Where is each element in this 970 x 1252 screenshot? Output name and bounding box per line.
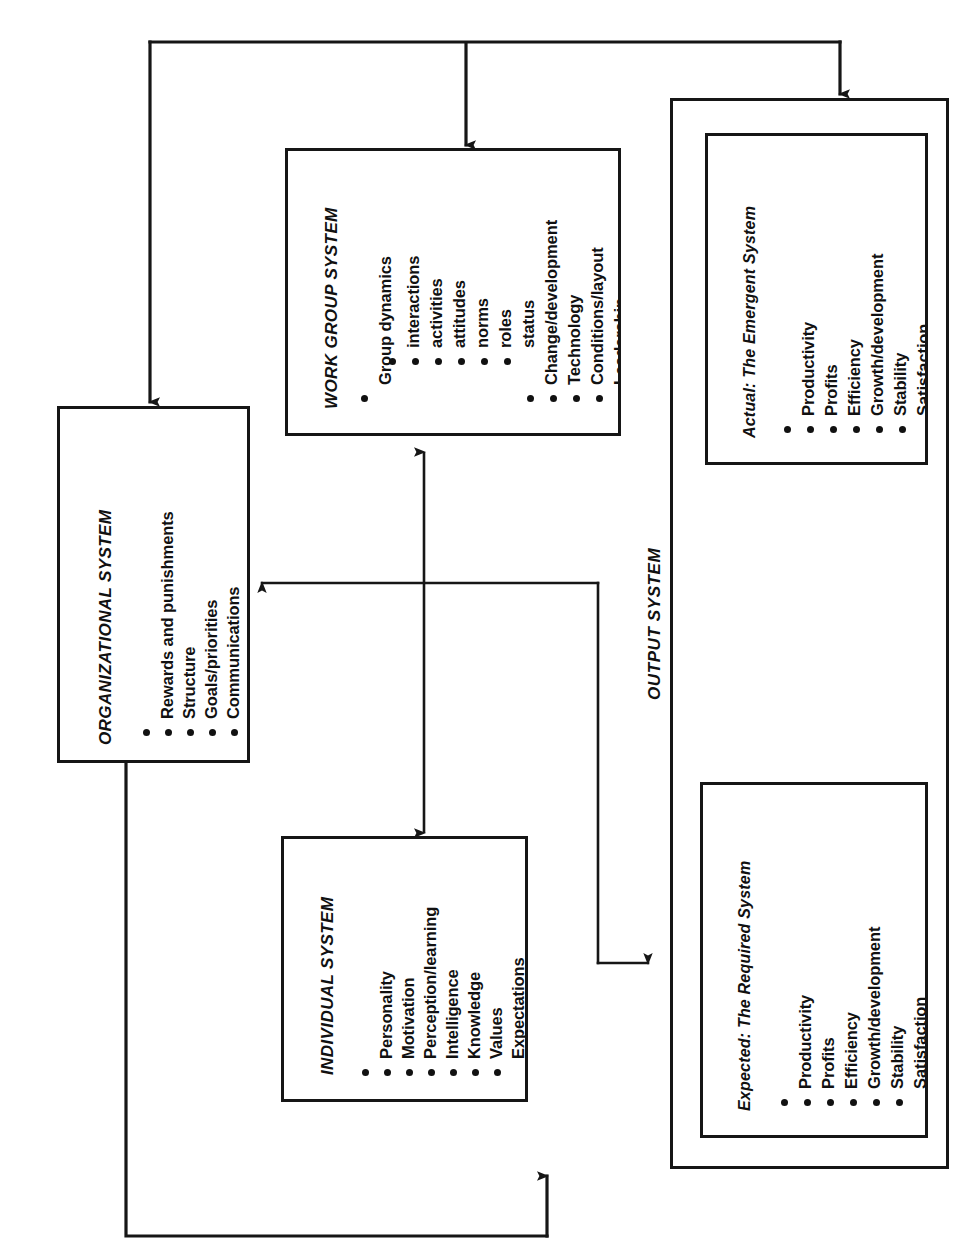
bullet-ind-4 xyxy=(450,1069,457,1076)
bullet-wg-sub-1 xyxy=(412,358,419,365)
bullet-actual-5 xyxy=(899,426,906,433)
required-system-item: Productivity xyxy=(796,995,815,1089)
required-system-box[interactable]: Expected: The Required System Productivi… xyxy=(700,782,928,1138)
organizational-system-item: Goals/priorities xyxy=(202,600,221,719)
work-group-system-sub-item: norms xyxy=(473,298,492,348)
work-group-system-item: Change/development xyxy=(542,220,561,385)
individual-system-item: Motivation xyxy=(399,978,418,1060)
work-group-system-content: WORK GROUP SYSTEM Group dynamics interac… xyxy=(288,151,618,433)
bullet-org-0 xyxy=(143,729,150,736)
bullet-wg-sub-2 xyxy=(435,358,442,365)
emergent-system-item: Profits xyxy=(822,364,841,416)
bullet-wg-sub-5 xyxy=(504,358,511,365)
bullet-actual-0 xyxy=(784,426,791,433)
emergent-system-box[interactable]: Actual: The Emergent System Productivity… xyxy=(705,133,928,465)
emergent-system-content: Actual: The Emergent System Productivity… xyxy=(708,136,925,462)
bullet-wg-1 xyxy=(527,395,534,402)
bullet-org-2 xyxy=(187,729,194,736)
work-group-system-item: Conditions/layout xyxy=(588,247,607,385)
organizational-system-title: ORGANIZATIONAL SYSTEM xyxy=(96,510,116,745)
emergent-system-item: Productivity xyxy=(799,322,818,416)
emergent-system-item: Efficiency xyxy=(845,339,864,416)
work-group-system-title: WORK GROUP SYSTEM xyxy=(322,207,342,409)
individual-system-item: Perception/learning xyxy=(421,907,440,1059)
bullet-org-1 xyxy=(165,729,172,736)
bullet-wg-2 xyxy=(550,395,557,402)
bullet-wg-3 xyxy=(573,395,580,402)
organizational-system-item: Rewards and punishments xyxy=(158,511,177,719)
bullet-org-4 xyxy=(231,729,238,736)
bullet-ind-0 xyxy=(362,1069,369,1076)
organizational-system-item: Structure xyxy=(180,647,199,719)
bullet-wg-0 xyxy=(361,395,368,402)
bullet-expected-5 xyxy=(896,1099,903,1106)
required-system-item: Efficiency xyxy=(842,1012,861,1089)
bullet-actual-4 xyxy=(876,426,883,433)
organizational-system-item: Communications xyxy=(224,587,243,719)
organizational-system-box[interactable]: ORGANIZATIONAL SYSTEM Rewards and punish… xyxy=(57,406,250,763)
required-system-item: Satisfaction xyxy=(911,997,925,1089)
work-group-system-sub-item: roles xyxy=(496,309,515,348)
work-group-system-sub-item: attitudes xyxy=(450,280,469,348)
organizational-system-content: ORGANIZATIONAL SYSTEM Rewards and punish… xyxy=(60,409,247,760)
work-group-system-item: Leadership xyxy=(611,298,618,385)
emergent-system-item: Satisfaction xyxy=(914,324,925,416)
emergent-system-item: Growth/development xyxy=(868,254,887,416)
work-group-system-sub-item: activities xyxy=(427,278,446,348)
individual-system-title: INDIVIDUAL SYSTEM xyxy=(318,897,338,1075)
required-system-item: Growth/development xyxy=(865,927,884,1089)
bullet-expected-3 xyxy=(850,1099,857,1106)
bullet-actual-1 xyxy=(807,426,814,433)
work-group-system-sub-item: interactions xyxy=(404,256,423,348)
required-system-content: Expected: The Required System Productivi… xyxy=(703,785,925,1135)
bullet-expected-0 xyxy=(781,1099,788,1106)
bullet-wg-sub-0 xyxy=(389,358,396,365)
output-system-label: OUTPUT SYSTEM xyxy=(645,548,665,700)
required-system-item: Profits xyxy=(819,1037,838,1089)
bullet-actual-3 xyxy=(853,426,860,433)
bullet-ind-3 xyxy=(428,1069,435,1076)
work-group-system-sub-item: status xyxy=(519,300,538,348)
bullet-expected-1 xyxy=(804,1099,811,1106)
individual-system-item: Knowledge xyxy=(465,972,484,1059)
organizational-system-item: Change/development xyxy=(246,554,247,719)
bullet-ind-6 xyxy=(494,1069,501,1076)
individual-system-item: Expectations xyxy=(509,958,525,1060)
bullet-ind-5 xyxy=(472,1069,479,1076)
bullet-wg-sub-4 xyxy=(481,358,488,365)
diagram-canvas: ORGANIZATIONAL SYSTEM Rewards and punish… xyxy=(0,0,970,1252)
work-group-system-item: Technology xyxy=(565,295,584,385)
bullet-wg-4 xyxy=(596,395,603,402)
required-system-item: Stability xyxy=(888,1026,907,1089)
individual-system-box[interactable]: INDIVIDUAL SYSTEM Personality Motivation… xyxy=(281,836,528,1102)
individual-system-item: Intelligence xyxy=(443,969,462,1059)
bullet-actual-2 xyxy=(830,426,837,433)
emergent-system-item: Stability xyxy=(891,353,910,416)
bullet-ind-2 xyxy=(406,1069,413,1076)
work-group-system-box[interactable]: WORK GROUP SYSTEM Group dynamics interac… xyxy=(285,148,621,436)
work-group-system-item: Group dynamics xyxy=(376,256,395,385)
bullet-ind-1 xyxy=(384,1069,391,1076)
individual-system-content: INDIVIDUAL SYSTEM Personality Motivation… xyxy=(284,839,525,1099)
bullet-org-3 xyxy=(209,729,216,736)
bullet-expected-2 xyxy=(827,1099,834,1106)
bullet-wg-sub-3 xyxy=(458,358,465,365)
required-system-title: Expected: The Required System xyxy=(736,861,754,1111)
bullet-expected-4 xyxy=(873,1099,880,1106)
emergent-system-title: Actual: The Emergent System xyxy=(741,206,759,438)
individual-system-item: Personality xyxy=(377,971,396,1059)
individual-system-item: Values xyxy=(487,1007,506,1059)
